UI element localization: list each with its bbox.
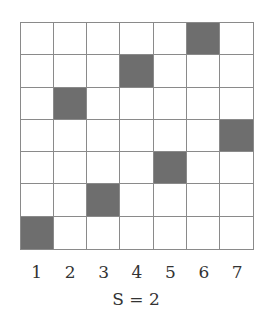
grid-cell <box>21 120 54 152</box>
grid-cell-filled <box>21 217 54 249</box>
grid-cell <box>220 217 253 249</box>
grid-cell <box>154 184 187 216</box>
grid-cell <box>154 55 187 87</box>
grid-cell <box>21 55 54 87</box>
grid-cell-filled <box>87 184 120 216</box>
column-label: 6 <box>187 262 220 282</box>
column-labels: 1 2 3 4 5 6 7 <box>20 262 254 282</box>
column-label: 2 <box>53 262 86 282</box>
grid-cell <box>54 55 87 87</box>
grid-cell <box>120 217 153 249</box>
grid-cell-filled <box>120 55 153 87</box>
column-label: 4 <box>120 262 153 282</box>
column-label: 3 <box>87 262 120 282</box>
grid-cell <box>187 55 220 87</box>
grid-cell <box>87 120 120 152</box>
grid-cell <box>154 120 187 152</box>
grid-cell <box>220 23 253 55</box>
pattern-grid <box>20 22 254 250</box>
grid-cell <box>21 88 54 120</box>
grid-cell <box>220 152 253 184</box>
grid-cell <box>220 55 253 87</box>
grid-cell <box>120 184 153 216</box>
grid-cell <box>187 184 220 216</box>
grid-cell <box>187 152 220 184</box>
grid-cell <box>220 88 253 120</box>
grid-cell-filled <box>187 23 220 55</box>
grid-cell <box>54 23 87 55</box>
grid-cell <box>87 23 120 55</box>
grid-cell-filled <box>154 152 187 184</box>
grid-cell <box>54 184 87 216</box>
grid-cell <box>120 23 153 55</box>
grid-cell <box>154 88 187 120</box>
grid-cell <box>54 120 87 152</box>
grid-cell <box>187 217 220 249</box>
grid-cell <box>187 88 220 120</box>
column-label: 5 <box>154 262 187 282</box>
grid-cell <box>54 152 87 184</box>
grid-cell <box>187 120 220 152</box>
grid-cell <box>120 120 153 152</box>
grid-cell <box>154 23 187 55</box>
grid-cell <box>87 217 120 249</box>
grid-cell-filled <box>54 88 87 120</box>
grid-cell-filled <box>220 120 253 152</box>
column-label: 7 <box>221 262 254 282</box>
grid-cell <box>87 152 120 184</box>
grid-cell <box>87 55 120 87</box>
caption: S = 2 <box>0 289 272 309</box>
grid-cell <box>21 23 54 55</box>
grid-cell <box>21 184 54 216</box>
grid-cell <box>54 217 87 249</box>
grid-cell <box>120 152 153 184</box>
column-label: 1 <box>20 262 53 282</box>
grid-cell <box>220 184 253 216</box>
grid-cell <box>87 88 120 120</box>
grid-cell <box>21 152 54 184</box>
grid-cell <box>120 88 153 120</box>
grid-cell <box>154 217 187 249</box>
